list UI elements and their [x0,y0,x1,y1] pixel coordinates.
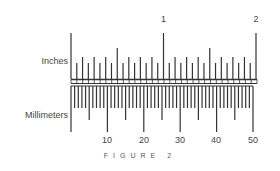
millimeters-label: Millimeters [25,110,69,120]
inches-major-label-1: 1 [161,14,166,24]
inches-label: Inches [41,56,68,66]
mm-major-label-40: 40 [211,135,221,145]
millimeters-scale: Millimeters 10 20 30 40 50 [25,86,258,145]
inches-major-label-2: 2 [253,14,258,24]
millimeters-ticks [71,86,253,132]
mm-major-label-20: 20 [139,135,149,145]
mm-major-label-30: 30 [175,135,185,145]
mm-major-label-10: 10 [102,135,112,145]
inches-scale: Inches 1 2 [41,14,258,80]
inches-ticks [71,33,256,79]
figure-caption: FIGURE 2 [0,152,280,159]
mm-major-label-50: 50 [248,135,258,145]
ruler-diagram: Inches 1 2 Millimeters 10 20 30 40 50 [0,0,280,171]
